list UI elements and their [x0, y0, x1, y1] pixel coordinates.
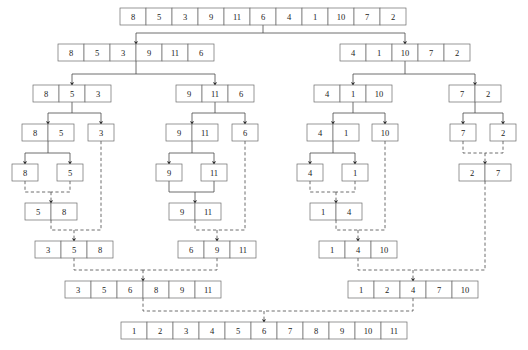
connector-layer	[25, 25, 503, 321]
array-cell-value: 7	[460, 89, 464, 99]
array-node: 3	[88, 124, 114, 141]
merge-connector	[74, 141, 101, 230]
array-node: 9116	[176, 85, 254, 102]
split-connector	[169, 153, 192, 163]
array-node: 9	[156, 164, 182, 181]
array-cell-value: 10	[380, 245, 389, 255]
array-cell-value: 8	[44, 89, 48, 99]
array-cell-value: 1	[330, 245, 334, 255]
merge-connector	[358, 258, 413, 270]
array-cell-value: 7	[437, 285, 441, 295]
array-cell-value: 11	[211, 89, 219, 99]
array-node: 27	[459, 164, 511, 181]
array-node: 6911	[178, 241, 256, 258]
array-cell-value: 9	[167, 168, 171, 178]
merge-connector	[143, 258, 217, 270]
array-cell-value: 5	[70, 89, 74, 99]
array-cell-value: 11	[210, 168, 218, 178]
split-connector	[136, 33, 263, 43]
array-node: 8539116	[58, 44, 214, 61]
array-cell-value: 6	[189, 245, 193, 255]
array-cell-value: 1	[132, 326, 136, 336]
array-node: 8	[12, 164, 38, 181]
array-cell-value: 7	[288, 326, 292, 336]
array-cell-value: 11	[390, 326, 398, 336]
array-cell-value: 9	[209, 12, 213, 22]
array-cell-value: 7	[461, 128, 465, 138]
array-node: 5	[57, 164, 83, 181]
array-cell-value: 3	[183, 12, 187, 22]
array-cell-value: 6	[262, 326, 266, 336]
array-cell-value: 8	[62, 207, 66, 217]
array-cell-value: 1	[344, 128, 348, 138]
array-cell-value: 8	[131, 12, 135, 22]
array-cell-value: 6	[199, 48, 203, 58]
split-connector	[192, 113, 215, 123]
array-node: 85	[22, 124, 74, 141]
array-cell-value: 1	[359, 285, 363, 295]
array-cell-value: 10	[461, 285, 470, 295]
array-node: 1410	[319, 241, 397, 258]
array-node: 72	[449, 85, 501, 102]
split-connector	[463, 113, 475, 123]
array-node: 1234567891011	[121, 322, 407, 339]
split-connector	[136, 74, 215, 84]
split-connector	[310, 153, 333, 163]
array-cell-value: 5	[102, 285, 106, 295]
array-cell-value: 2	[470, 168, 474, 178]
split-connector	[72, 113, 101, 123]
array-cell-value: 1	[377, 48, 381, 58]
merge-connector	[310, 181, 336, 192]
array-cell-value: 5	[59, 128, 63, 138]
array-cell-value: 7	[496, 168, 500, 178]
merge-connector	[336, 181, 355, 192]
merge-connector	[25, 181, 51, 192]
array-cell-value: 11	[204, 285, 212, 295]
array-cell-value: 5	[236, 326, 240, 336]
array-cell-value: 9	[180, 207, 184, 217]
array-cell-value: 3	[184, 326, 188, 336]
split-connector	[192, 153, 214, 163]
array-node: 10	[372, 124, 398, 141]
array-cell-value: 1	[351, 89, 355, 99]
array-node: 4110	[314, 85, 392, 102]
array-cell-value: 2	[391, 12, 395, 22]
merge-connector	[169, 181, 195, 192]
merge-connector	[413, 181, 485, 270]
array-cell-value: 11	[204, 207, 212, 217]
split-connector	[353, 74, 405, 84]
merge-connector	[195, 220, 217, 230]
array-cell-value: 10	[337, 12, 346, 22]
array-cell-value: 3	[76, 285, 80, 295]
array-cell-value: 11	[239, 245, 247, 255]
array-node-layer: 8539116411072853911641107285391164110728…	[12, 8, 516, 339]
split-connector	[72, 74, 136, 84]
split-connector	[333, 113, 353, 123]
array-cell-value: 7	[365, 12, 369, 22]
array-cell-value: 10	[364, 326, 373, 336]
array-cell-value: 2	[501, 128, 505, 138]
split-connector	[333, 153, 355, 163]
array-node: 58	[25, 203, 77, 220]
array-cell-value: 9	[180, 285, 184, 295]
array-node: 11	[201, 164, 227, 181]
array-cell-value: 9	[215, 245, 219, 255]
array-cell-value: 10	[375, 89, 384, 99]
array-cell-value: 7	[429, 48, 433, 58]
merge-connector	[51, 181, 70, 192]
split-connector	[475, 113, 503, 123]
array-node: 911	[169, 203, 221, 220]
array-cell-value: 11	[233, 12, 241, 22]
array-cell-value: 3	[99, 128, 103, 138]
array-cell-value: 8	[154, 285, 158, 295]
array-cell-value: 8	[69, 48, 73, 58]
array-cell-value: 6	[128, 285, 132, 295]
array-cell-value: 8	[98, 245, 102, 255]
split-connector	[215, 113, 245, 123]
array-cell-value: 3	[46, 245, 50, 255]
merge-connector	[195, 181, 214, 192]
array-cell-value: 9	[187, 89, 191, 99]
split-connector	[263, 33, 405, 43]
split-connector	[25, 153, 48, 163]
merge-connector	[485, 141, 503, 153]
